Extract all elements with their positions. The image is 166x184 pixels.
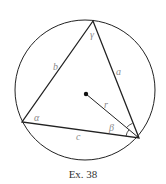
label-side-c: c — [76, 131, 81, 142]
figure-caption: Ex. 38 — [0, 168, 166, 180]
label-beta: β — [108, 122, 114, 133]
center-point — [84, 92, 88, 96]
label-alpha: α — [34, 112, 40, 123]
circumscribed-triangle-diagram: γ b a r α β c — [0, 0, 166, 184]
label-radius: r — [104, 99, 108, 110]
angle-arc-inner — [126, 130, 129, 137]
angle-arc-outer — [127, 123, 133, 127]
triangle — [22, 21, 139, 138]
label-side-b: b — [53, 61, 58, 72]
circumcircle — [15, 20, 155, 160]
label-gamma: γ — [90, 29, 95, 40]
label-side-a: a — [116, 66, 121, 77]
